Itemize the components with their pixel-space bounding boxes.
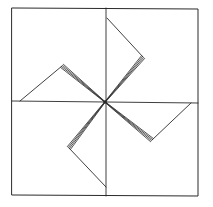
blade-bottom-outer-edge bbox=[69, 148, 106, 187]
pinwheel-drawing bbox=[0, 0, 213, 207]
blade-bottom-fold-line bbox=[71, 102, 106, 149]
blade-right-outer-edge bbox=[152, 103, 191, 140]
blade-left-outer-edge bbox=[20, 66, 62, 101]
blade-top-fold-line bbox=[105, 56, 142, 102]
blade-left-fold-line bbox=[61, 68, 105, 103]
blade-top-outer-edge bbox=[107, 18, 143, 57]
blade-right-fold-line bbox=[105, 102, 153, 139]
